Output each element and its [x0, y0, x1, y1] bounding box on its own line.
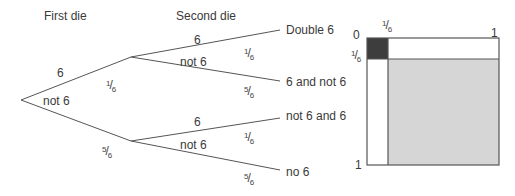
- area-label-top-sixth: 1/6: [382, 19, 392, 33]
- header-second-die: Second die: [176, 9, 236, 23]
- prob-upper-6: 1/6: [244, 47, 254, 61]
- area-double-six: [367, 38, 388, 59]
- label-first-not6: not 6: [43, 94, 70, 108]
- label-lower-not6: not 6: [180, 138, 207, 152]
- outcome-6-and-not-6: 6 and not 6: [286, 75, 346, 89]
- prob-upper-not6: 5/6: [244, 85, 254, 99]
- branch-upper-6: [131, 30, 280, 57]
- prob-first-not6: 5/6: [102, 145, 112, 159]
- outcome-not-6-and-6: not 6 and 6: [286, 109, 346, 123]
- outcome-no-6: no 6: [286, 165, 309, 179]
- label-upper-6: 6: [194, 33, 201, 47]
- prob-lower-6: 1/6: [244, 131, 254, 145]
- prob-first-6: 1/6: [106, 79, 116, 93]
- label-upper-not6: not 6: [180, 55, 207, 69]
- label-first-6: 6: [57, 66, 64, 80]
- label-lower-6: 6: [194, 115, 201, 129]
- area-label-top-1: 1: [491, 26, 498, 40]
- branch-first-not6: [21, 100, 131, 141]
- area-no-six: [388, 59, 499, 165]
- area-label-left-sixth: 1/6: [351, 49, 361, 63]
- prob-lower-not6: 5/6: [244, 172, 254, 186]
- outcome-double-6: Double 6: [286, 23, 334, 37]
- area-label-0: 0: [353, 28, 360, 42]
- header-first-die: First die: [44, 9, 87, 23]
- diagram-lines: [0, 0, 515, 196]
- area-label-bottom-1: 1: [355, 158, 362, 172]
